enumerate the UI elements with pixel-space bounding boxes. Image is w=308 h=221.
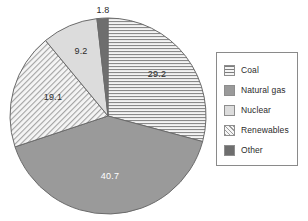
legend-swatch-other (224, 145, 235, 156)
pie-slices-group (10, 18, 206, 214)
legend-item-natural-gas[interactable]: Natural gas (217, 80, 297, 100)
legend-label-renewables: Renewables (241, 125, 289, 135)
legend-label-natural-gas: Natural gas (241, 85, 286, 95)
pie-chart-figure: 29.240.719.19.21.8 Coal Natural gas Nucl… (0, 0, 308, 221)
legend-item-nuclear[interactable]: Nuclear (217, 100, 297, 120)
legend-item-coal[interactable]: Coal (217, 60, 297, 80)
legend-swatch-coal (224, 65, 235, 76)
legend-item-other[interactable]: Other (217, 140, 297, 160)
legend-swatch-renewables (224, 125, 235, 136)
legend-swatch-nuclear (224, 105, 235, 116)
legend-swatch-natural-gas (224, 85, 235, 96)
legend-label-other: Other (241, 145, 263, 155)
chart-legend: Coal Natural gas Nuclear Renewables Othe… (216, 52, 298, 166)
legend-item-renewables[interactable]: Renewables (217, 120, 297, 140)
legend-label-nuclear: Nuclear (241, 105, 271, 115)
legend-label-coal: Coal (241, 65, 259, 75)
